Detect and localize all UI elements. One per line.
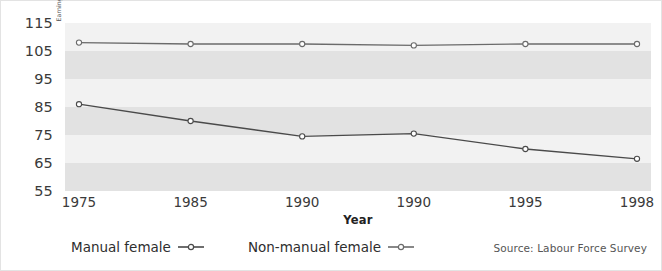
x-axis-tick: 1990 [379,193,449,211]
data-point-marker [411,131,416,136]
data-point-marker [634,41,639,46]
x-axis-tick: 1985 [156,193,226,211]
legend-line-marker-icon [388,242,414,252]
series-layer [65,23,651,191]
legend-entry[interactable]: Manual female [71,239,204,255]
y-axis-tick: 115 [13,16,53,31]
y-axis-tick: 85 [13,100,53,115]
x-axis-tick: 1975 [44,193,114,211]
data-point-marker [76,40,81,45]
x-axis-tick: 1998 [602,193,662,211]
data-point-marker [411,43,416,48]
x-axis-tick-labels: 197519851990199019951998 [65,193,651,211]
data-point-marker [76,102,81,107]
series-line [79,43,637,46]
data-point-marker [188,118,193,123]
data-point-marker [300,134,305,139]
y-axis-tick: 75 [13,128,53,143]
chart-legend: Manual femaleNon-manual female [71,239,414,255]
data-point-marker [634,156,639,161]
data-point-marker [523,146,528,151]
y-axis-tick: 105 [13,44,53,59]
y-axis-tick-labels: 1151059585756555 [13,1,53,271]
y-axis-label: Earnings as a % of average female earnin… [53,0,65,35]
y-axis-tick: 95 [13,72,53,87]
legend-label: Manual female [71,239,171,255]
plot-area [65,23,651,191]
data-point-marker [523,41,528,46]
legend-label: Non-manual female [248,239,381,255]
data-point-marker [300,41,305,46]
data-point-marker [188,41,193,46]
y-axis-tick: 65 [13,156,53,171]
x-axis-label: Year [65,213,651,227]
series-line [79,104,637,159]
source-note: Source: Labour Force Survey [493,242,647,254]
chart-figure: 1151059585756555 Earnings as a % of aver… [0,0,662,271]
legend-entry[interactable]: Non-manual female [248,239,414,255]
x-axis-tick: 1995 [490,193,560,211]
legend-line-marker-icon [178,242,204,252]
x-axis-tick: 1990 [267,193,337,211]
